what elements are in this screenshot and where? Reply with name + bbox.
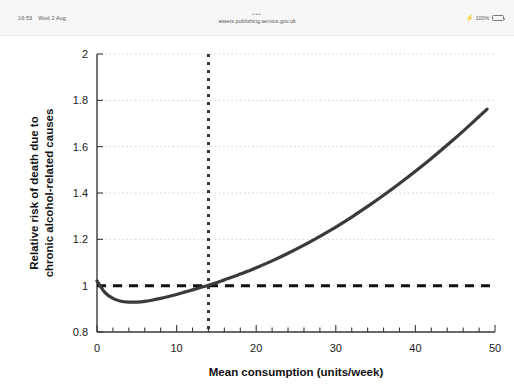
x-tick-label: 50: [489, 342, 501, 354]
chart-series: [97, 109, 487, 302]
y-axis-title-line-1: Relative risk of death due to: [28, 116, 40, 269]
y-tick-label: 1.6: [73, 141, 88, 153]
y-tick-label: 1.2: [73, 233, 88, 245]
status-date: Wed 2 Aug: [38, 15, 66, 21]
y-tick-label: 1.4: [73, 187, 88, 199]
chart-canvas: 01020304050 0.811.21.41.61.82 Mean consu…: [0, 36, 514, 391]
status-bar-right: ⚡ 100%: [466, 15, 504, 21]
x-tick-label: 10: [170, 342, 182, 354]
y-axis-title-line-2: chronic alcohol-related causes: [43, 109, 55, 278]
x-tick-label: 0: [94, 342, 100, 354]
document-page: 01020304050 0.811.21.41.61.82 Mean consu…: [0, 36, 514, 391]
url-text: assets.publishing.service.gov.uk: [157, 17, 357, 25]
x-tick-label: 20: [250, 342, 262, 354]
y-axis-tick-labels: 0.811.21.41.61.82: [73, 48, 88, 338]
x-axis-ticks: [97, 325, 495, 332]
y-tick-label: 0.8: [73, 326, 88, 338]
y-tick-label: 1: [82, 280, 88, 292]
charging-bolt-icon: ⚡: [466, 15, 473, 21]
chart-gridlines: [97, 54, 495, 332]
x-axis-tick-labels: 01020304050: [94, 342, 501, 354]
y-tick-label: 1.8: [73, 94, 88, 106]
x-tick-label: 40: [409, 342, 421, 354]
risk-chart-figure: 01020304050 0.811.21.41.61.82 Mean consu…: [0, 36, 514, 391]
battery-percent-label: 100%: [475, 15, 489, 21]
browser-chrome: 16:53 Wed 2 Aug ••• assets.publishing.se…: [0, 0, 514, 36]
battery-icon: [492, 15, 504, 21]
url-bar[interactable]: ••• assets.publishing.service.gov.uk: [157, 12, 357, 25]
x-tick-label: 30: [330, 342, 342, 354]
status-bar-left: 16:53 Wed 2 Aug: [18, 15, 66, 21]
status-time: 16:53: [18, 15, 32, 21]
y-tick-label: 2: [82, 48, 88, 60]
x-axis-title: Mean consumption (units/week): [209, 366, 384, 378]
series-line-risk-curve: [97, 109, 487, 302]
